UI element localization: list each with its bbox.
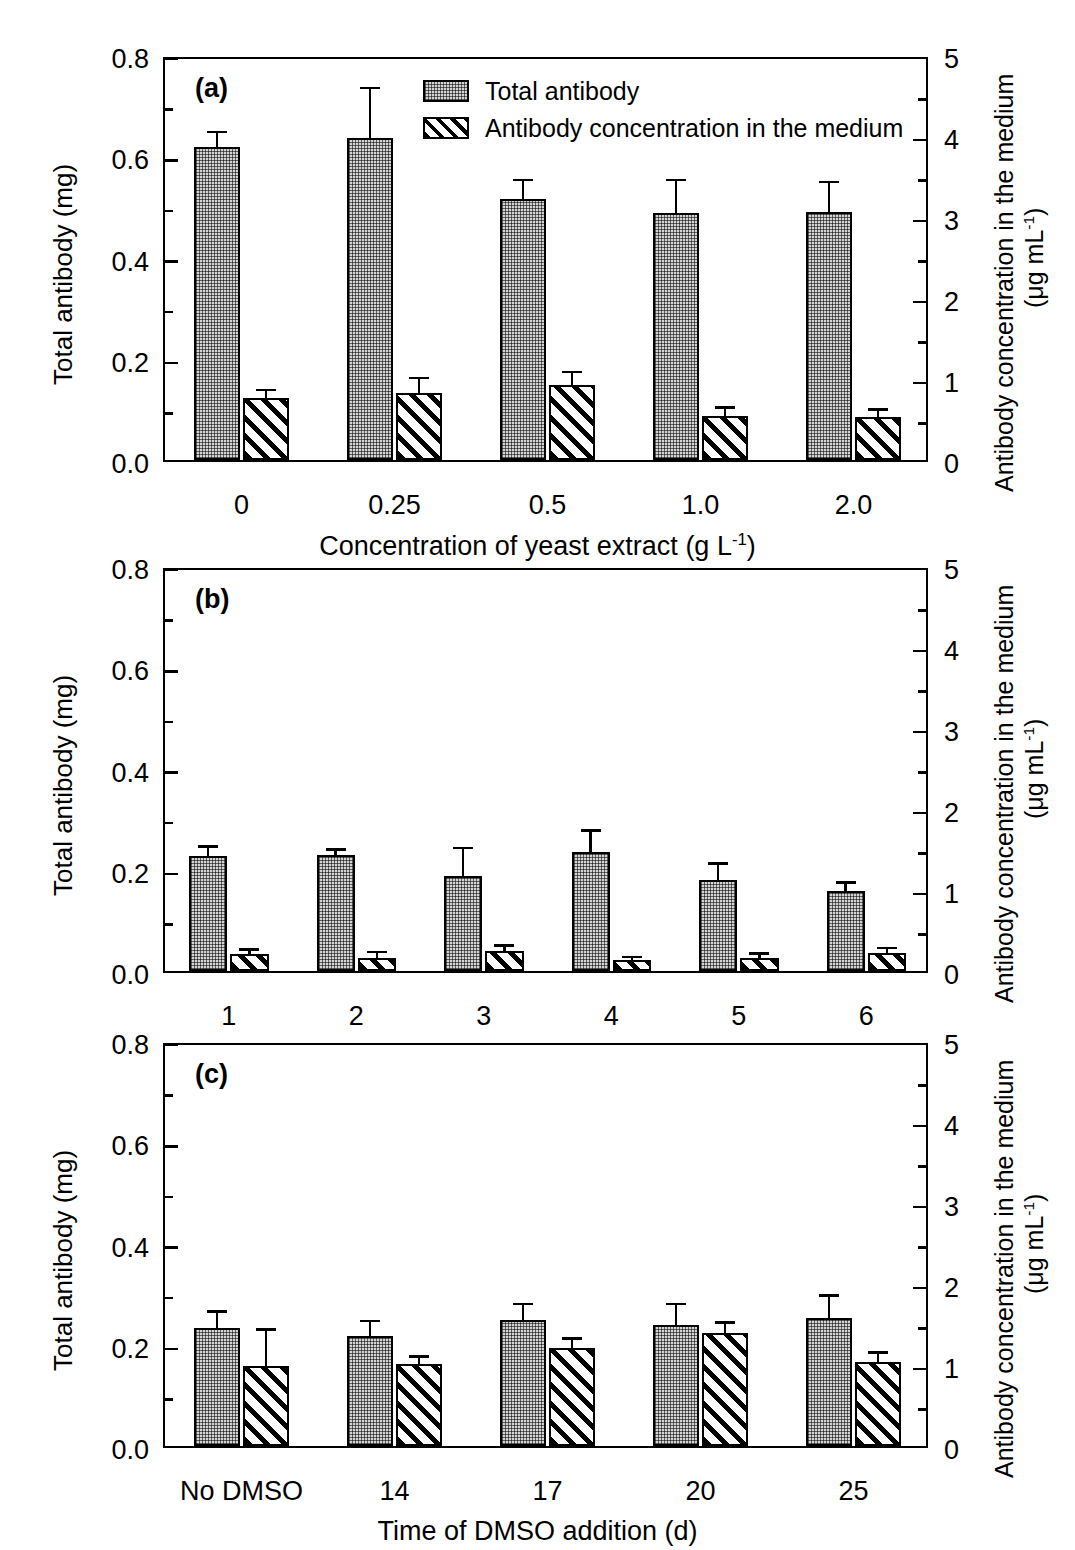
bar-medium-concentration xyxy=(549,1348,595,1446)
bar-medium-concentration xyxy=(702,416,748,460)
y-axis-minor-tick xyxy=(165,923,173,926)
error-bar-stem xyxy=(877,1354,880,1362)
y2-axis-minor-tick xyxy=(918,609,926,612)
error-bar-cap xyxy=(360,1320,380,1323)
y2-axis-minor-tick xyxy=(918,341,926,344)
x-axis-tick-label: 0.5 xyxy=(529,490,567,521)
error-bar-stem xyxy=(522,1305,525,1320)
error-bar-cap xyxy=(715,1321,735,1324)
legend-swatch-dotted-stipple xyxy=(423,80,469,102)
error-bar-stem xyxy=(758,955,761,958)
error-bar-cap xyxy=(562,1337,582,1340)
bar-medium-concentration xyxy=(396,1364,442,1446)
error-bar-cap xyxy=(494,944,514,947)
x-axis-tick-label: No DMSO xyxy=(180,1476,303,1507)
y2-axis-minor-tick xyxy=(918,422,926,425)
bar-total-antibody xyxy=(347,138,393,460)
x-axis-title-a: Concentration of yeast extract (g L-1) xyxy=(0,530,1075,562)
error-bar-cap xyxy=(666,1303,686,1306)
x-axis-tick-label: 0 xyxy=(234,490,249,521)
error-bar-stem xyxy=(877,411,880,417)
error-bar-stem xyxy=(369,89,372,137)
error-bar-stem xyxy=(418,379,421,393)
bar-total-antibody xyxy=(827,891,865,971)
y2-axis-tick-label: 3 xyxy=(944,717,959,748)
error-bar-cap xyxy=(513,179,533,182)
error-bar-stem xyxy=(503,947,506,951)
y2-axis-tick-label: 3 xyxy=(944,206,959,237)
y-axis-minor-tick xyxy=(165,1398,173,1401)
bar-medium-concentration xyxy=(243,1366,289,1446)
y-axis-tick-label: 0.2 xyxy=(111,1333,149,1364)
chart-panel-a: 0.00.20.40.60.801234500.250.51.02.0(a)Co… xyxy=(0,57,1075,582)
error-bar-stem xyxy=(571,373,574,384)
bar-total-antibody xyxy=(444,876,482,971)
y-axis-minor-tick xyxy=(165,311,173,314)
error-bar-stem xyxy=(265,391,268,398)
y2-axis-tick-label: 2 xyxy=(944,287,959,318)
x-axis-tick-label: 4 xyxy=(604,1001,619,1032)
bar-medium-concentration xyxy=(358,958,396,971)
error-bar-cap xyxy=(581,829,601,832)
y-axis-tick-label: 0.0 xyxy=(111,449,149,480)
y2-axis-tick-label: 0 xyxy=(944,960,959,991)
bar-total-antibody xyxy=(572,852,610,971)
bar-total-antibody xyxy=(317,855,355,971)
x-axis-tick-label: 1.0 xyxy=(682,490,720,521)
error-bar-stem xyxy=(207,848,210,856)
error-bar-cap xyxy=(409,377,429,380)
error-bar-stem xyxy=(828,1297,831,1319)
x-axis-tick-label: 20 xyxy=(685,1476,715,1507)
error-bar-cap xyxy=(326,848,346,851)
y-axis-tick-label: 0.4 xyxy=(111,1232,149,1263)
plot-area-c: 0.00.20.40.60.8012345No DMSO14172025(c) xyxy=(163,1043,928,1448)
y2-axis-tick-label: 4 xyxy=(944,636,959,667)
error-bar-cap xyxy=(513,1303,533,1306)
error-bar-cap xyxy=(453,847,473,850)
x-axis-tick-label: 17 xyxy=(532,1476,562,1507)
error-bar-stem xyxy=(376,953,379,958)
y-axis-minor-tick xyxy=(165,1196,173,1199)
error-bar-cap xyxy=(868,1351,888,1354)
y2-axis-minor-tick xyxy=(918,1408,926,1411)
y-axis-major-tick xyxy=(165,159,178,162)
error-bar-stem xyxy=(334,851,337,856)
y2-axis-minor-tick xyxy=(918,98,926,101)
y2-axis-major-tick xyxy=(913,1206,926,1209)
y2-axis-tick-label: 1 xyxy=(944,368,959,399)
y2-axis-major-tick xyxy=(913,220,926,223)
bar-medium-concentration xyxy=(855,417,901,460)
y2-axis-title-line1-a: Antibody concentration in the medium xyxy=(990,73,1019,491)
y-axis-major-tick xyxy=(165,1348,178,1351)
y2-axis-minor-tick xyxy=(918,1327,926,1330)
y2-axis-tick-label: 4 xyxy=(944,1111,959,1142)
error-bar-cap xyxy=(367,951,387,954)
y2-axis-tick-label: 0 xyxy=(944,1435,959,1466)
y2-axis-major-tick xyxy=(913,650,926,653)
error-bar-stem xyxy=(216,1313,219,1328)
y-axis-title-b: Total antibody (mg) xyxy=(48,674,79,895)
bar-medium-concentration xyxy=(243,398,289,460)
bar-total-antibody xyxy=(653,213,699,460)
bar-medium-concentration xyxy=(613,960,651,971)
bar-medium-concentration xyxy=(855,1362,901,1446)
y2-axis-tick-label: 5 xyxy=(944,555,959,586)
y-axis-tick-label: 0.0 xyxy=(111,1435,149,1466)
y-axis-tick-label: 0.2 xyxy=(111,347,149,378)
error-bar-stem xyxy=(462,849,465,876)
bar-medium-concentration xyxy=(740,958,778,971)
y2-axis-tick-label: 2 xyxy=(944,798,959,829)
y2-axis-tick-label: 4 xyxy=(944,125,959,156)
x-axis-tick-label: 0.25 xyxy=(368,490,421,521)
chart-panel-c: 0.00.20.40.60.8012345No DMSO14172025(c)T… xyxy=(0,1043,1075,1550)
error-bar-cap xyxy=(708,862,728,865)
error-bar-stem xyxy=(369,1322,372,1335)
y-axis-title-c: Total antibody (mg) xyxy=(48,1149,79,1370)
bar-total-antibody xyxy=(194,147,240,460)
y-axis-minor-tick xyxy=(165,619,173,622)
error-bar-cap xyxy=(239,948,259,951)
y2-axis-minor-tick xyxy=(918,260,926,263)
y2-axis-tick-label: 3 xyxy=(944,1192,959,1223)
x-axis-tick-label: 14 xyxy=(379,1476,409,1507)
y-axis-major-tick xyxy=(165,569,178,572)
